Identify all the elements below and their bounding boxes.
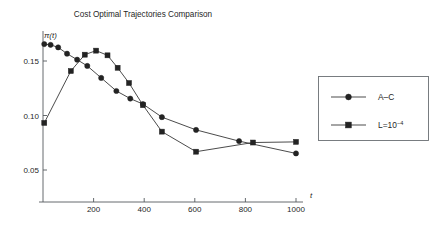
data-point-square [94, 48, 99, 53]
data-point-circle [193, 127, 198, 132]
data-point-circle [48, 42, 53, 47]
x-axis-label: t [310, 191, 313, 200]
data-point-circle [99, 75, 104, 80]
x-tick-label: 600 [188, 205, 202, 214]
data-point-circle [236, 139, 241, 144]
data-point-circle [64, 51, 69, 56]
x-tick-label: 800 [239, 205, 253, 214]
data-point-square [194, 149, 199, 154]
data-point-square [140, 103, 145, 108]
y-axis-label: π(t) [44, 31, 57, 40]
data-point-square [42, 120, 47, 125]
data-point-circle [159, 115, 164, 120]
chart-figure: Cost Optimal Trajectories Comparison π(t… [0, 0, 437, 232]
data-point-square [250, 140, 255, 145]
x-axis-ticks: 2004006008001000 [87, 198, 306, 214]
data-point-circle [293, 151, 298, 156]
legend-marker-square [346, 122, 352, 128]
data-point-circle [128, 96, 133, 101]
x-tick-label: 1000 [287, 205, 305, 214]
data-point-square [294, 139, 299, 144]
data-point-square [159, 129, 164, 134]
y-tick-label: 0.05 [23, 166, 39, 175]
cost-optimal-trajectories-chart: Cost Optimal Trajectories Comparison π(t… [0, 0, 437, 232]
data-point-square [68, 69, 73, 74]
legend-label: A–C [378, 92, 394, 102]
data-point-square [105, 53, 110, 58]
data-point-square [115, 65, 120, 70]
x-tick-label: 200 [87, 205, 101, 214]
data-point-circle [114, 88, 119, 93]
data-point-circle [56, 45, 61, 50]
data-point-square [82, 52, 87, 57]
data-point-square [127, 81, 132, 86]
series-line-square [44, 51, 296, 152]
x-tick-label: 400 [138, 205, 152, 214]
chart-series-group [42, 42, 299, 157]
y-tick-label: 0.15 [23, 57, 39, 66]
legend-box [319, 77, 429, 141]
chart-title: Cost Optimal Trajectories Comparison [74, 10, 213, 19]
y-axis-ticks: 0.050.100.15 [23, 57, 47, 175]
data-point-circle [85, 63, 90, 68]
y-tick-label: 0.10 [23, 112, 39, 121]
legend-marker-circle [346, 94, 352, 100]
data-point-circle [42, 42, 47, 47]
series-line-circle [44, 44, 296, 153]
